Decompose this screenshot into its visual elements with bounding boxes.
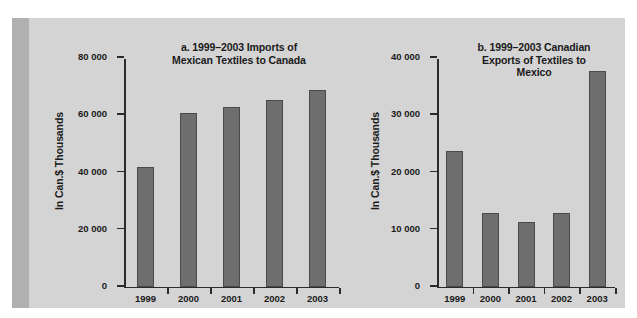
chart-a-xtick-0 (167, 288, 169, 294)
left-accent-bar (12, 18, 29, 308)
chart-a-ytick-label-0: 0 (102, 280, 107, 291)
chart-a-ytick-label-1: 20 000 (78, 222, 107, 233)
chart-a-xlabel-2000: 2000 (178, 293, 199, 304)
chart-a-title: a. 1999–2003 Imports of Mexican Textiles… (144, 41, 334, 66)
chart-a-plot-area: a. 1999–2003 Imports of Mexican Textiles… (124, 41, 339, 288)
figure-panel: In Can.$ Thousands a. 1999–2003 Imports … (12, 18, 625, 308)
chart-b: In Can.$ Thousands b. 1999–2003 Canadian… (359, 18, 625, 308)
figure-top-caption (10, 1, 610, 10)
chart-b-xtick-2 (544, 288, 546, 294)
chart-a-ytick-0: 0 (117, 285, 124, 287)
chart-b-title-line-2: Exports of Textiles to (459, 54, 609, 67)
chart-b-xlabel-2001: 2001 (515, 293, 536, 304)
chart-b-xlabel-2000: 2000 (480, 293, 501, 304)
chart-b-title-line-3: Mexico (459, 66, 609, 79)
chart-b-plot-area: b. 1999–2003 Canadian Exports of Textile… (437, 41, 615, 288)
chart-b-xtick-1 (508, 288, 510, 294)
bar-a-1999 (137, 167, 154, 287)
chart-a-ytick-1: 20 000 (117, 228, 124, 230)
chart-b-x-axis-line (437, 287, 615, 289)
chart-b-title-line-1: b. 1999–2003 Canadian (459, 41, 609, 54)
chart-a-ytick-label-3: 60 000 (78, 108, 107, 119)
chart-b-ytick-label-3: 30 000 (391, 108, 420, 119)
bar-a-2003 (309, 90, 326, 286)
chart-b-ytick-0: 0 (430, 285, 437, 287)
chart-b-ytick-3: 30 000 (430, 113, 437, 115)
bar-b-2000 (482, 213, 499, 286)
chart-a-ytick-2: 40 000 (117, 171, 124, 173)
bar-b-1999 (446, 151, 463, 287)
chart-a-xtick-4 (339, 288, 341, 294)
chart-b-ytick-1: 10 000 (430, 228, 437, 230)
chart-a-xlabel-1999: 1999 (135, 293, 156, 304)
chart-a-xlabel-2003: 2003 (307, 293, 328, 304)
chart-a-ytick-label-2: 40 000 (78, 165, 107, 176)
chart-b-y-axis-line (437, 59, 439, 288)
chart-b-ytick-2: 20 000 (430, 171, 437, 173)
bar-b-2002 (553, 213, 570, 287)
chart-b-ytick-label-2: 20 000 (391, 165, 420, 176)
chart-b-ytick-label-1: 10 000 (391, 222, 420, 233)
bar-a-2001 (223, 107, 240, 286)
chart-b-ytick-label-4: 40 000 (391, 51, 420, 62)
bar-a-2000 (180, 113, 197, 286)
chart-b-xtick-0 (473, 288, 475, 294)
chart-a-xtick-2 (253, 288, 255, 294)
chart-b-xlabel-1999: 1999 (444, 293, 465, 304)
chart-b-ytick-4: 40 000 (430, 56, 437, 58)
chart-a-ytick-label-4: 80 000 (78, 51, 107, 62)
chart-a-y-axis-line (124, 59, 126, 288)
chart-a-ytick-4: 80 000 (117, 56, 124, 58)
chart-b-xtick-4 (615, 288, 617, 294)
bar-b-2003 (589, 71, 606, 287)
chart-a-xtick-3 (296, 288, 298, 294)
chart-b-xtick-3 (579, 288, 581, 294)
chart-b-ytick-label-0: 0 (415, 280, 420, 291)
chart-b-xlabel-2003: 2003 (587, 293, 608, 304)
chart-a-x-axis-line (124, 287, 339, 289)
chart-a: In Can.$ Thousands a. 1999–2003 Imports … (29, 18, 359, 308)
figure-container: In Can.$ Thousands a. 1999–2003 Imports … (0, 0, 637, 318)
chart-a-xlabel-2001: 2001 (221, 293, 242, 304)
chart-a-y-axis-title: In Can.$ Thousands (51, 16, 67, 306)
bar-b-2001 (518, 222, 535, 287)
bar-a-2002 (266, 100, 283, 286)
chart-b-xlabel-2002: 2002 (551, 293, 572, 304)
chart-b-title: b. 1999–2003 Canadian Exports of Textile… (459, 41, 609, 79)
chart-a-xtick-1 (210, 288, 212, 294)
chart-b-y-axis-title: In Can.$ Thousands (367, 16, 383, 306)
chart-a-title-line-2: Mexican Textiles to Canada (144, 54, 334, 67)
charts-row: In Can.$ Thousands a. 1999–2003 Imports … (29, 18, 625, 308)
chart-a-xlabel-2002: 2002 (264, 293, 285, 304)
chart-a-ytick-3: 60 000 (117, 113, 124, 115)
chart-a-title-line-1: a. 1999–2003 Imports of (144, 41, 334, 54)
